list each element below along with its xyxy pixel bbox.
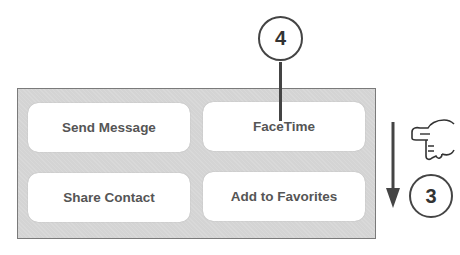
pointing-hand-icon	[408, 118, 456, 164]
down-arrow-icon	[384, 120, 402, 210]
add-to-favorites-button[interactable]: Add to Favorites	[203, 172, 365, 221]
callout-leader-line	[279, 62, 282, 121]
share-contact-button[interactable]: Share Contact	[28, 173, 190, 222]
send-message-button[interactable]: Send Message	[28, 103, 190, 152]
callout-number: 3	[425, 185, 436, 208]
callout-number: 4	[275, 27, 286, 50]
callout-4: 4	[258, 16, 303, 61]
facetime-button[interactable]: FaceTime	[203, 102, 365, 151]
callout-3: 3	[409, 174, 453, 218]
